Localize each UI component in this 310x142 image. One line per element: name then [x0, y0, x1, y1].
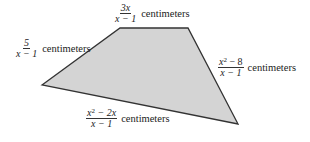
- bottom-num-rest: − 2x: [95, 107, 116, 118]
- right-num-rest: − 8: [227, 56, 243, 67]
- left-side-label: 5 x − 1 centimeters: [15, 38, 91, 59]
- top-denominator: x − 1: [114, 14, 137, 24]
- top-side-fraction: 3x x − 1: [114, 3, 137, 24]
- left-side-fraction: 5 x − 1: [15, 38, 38, 59]
- bottom-denominator: x − 1: [90, 119, 113, 129]
- top-unit: centimeters: [141, 8, 189, 19]
- bottom-side-fraction: x2 − 2x x − 1: [86, 108, 117, 129]
- left-denominator: x − 1: [15, 49, 38, 59]
- right-side-fraction: x2 − 8 x − 1: [218, 57, 244, 78]
- left-unit: centimeters: [42, 43, 90, 54]
- right-denominator: x − 1: [219, 68, 242, 78]
- quadrilateral-diagram: 3x x − 1 centimeters 5 x − 1 centimeters…: [0, 0, 310, 142]
- top-side-label: 3x x − 1 centimeters: [114, 3, 190, 24]
- bottom-unit: centimeters: [121, 113, 169, 124]
- bottom-side-label: x2 − 2x x − 1 centimeters: [86, 108, 170, 129]
- right-unit: centimeters: [248, 62, 296, 73]
- right-side-label: x2 − 8 x − 1 centimeters: [218, 57, 296, 78]
